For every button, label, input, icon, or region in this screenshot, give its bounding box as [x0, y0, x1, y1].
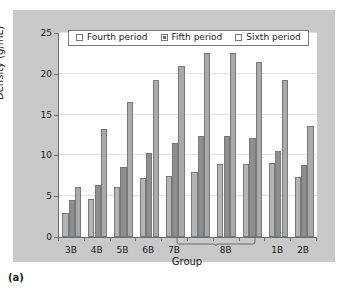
- bar: [127, 102, 133, 237]
- plot-area: [58, 33, 317, 238]
- x-axis-tick-mark: [84, 238, 85, 241]
- legend-swatch-icon: [235, 34, 242, 41]
- y-axis-tick-mark: [54, 196, 58, 197]
- legend-swatch-icon: [161, 34, 168, 41]
- y-axis-tick-label: 25: [32, 29, 52, 38]
- bar: [307, 126, 313, 237]
- x-axis-tick-mark: [110, 238, 111, 241]
- x-axis-tick-mark: [264, 238, 265, 241]
- y-axis-tick-label: 15: [32, 111, 52, 120]
- bar: [153, 80, 159, 237]
- y-axis-tick-label: 5: [32, 192, 52, 201]
- gridline: [59, 114, 317, 115]
- legend-label: Fourth period: [87, 33, 148, 42]
- x-axis-tick-mark: [290, 238, 291, 241]
- y-axis-tick-mark: [54, 115, 58, 116]
- figure-container: Density (g/mL) 0510152025 3B4B5B6B7B8B1B…: [0, 0, 348, 294]
- y-axis-tick-label: 10: [32, 151, 52, 160]
- y-axis-label: Density (g/mL): [0, 26, 5, 100]
- y-axis-tick-label: 20: [32, 70, 52, 79]
- x-axis-tick-mark: [135, 238, 136, 241]
- x-axis-tick-label: 8B: [211, 246, 241, 255]
- legend-entry: Sixth period: [235, 33, 300, 42]
- bar: [230, 53, 236, 237]
- bar: [256, 62, 262, 237]
- x-axis-tick-label: 2B: [288, 246, 318, 255]
- x-axis-tick-mark: [316, 238, 317, 241]
- legend-label: Sixth period: [246, 33, 300, 42]
- chart-legend: Fourth periodFifth periodSixth period: [68, 30, 309, 46]
- legend-entry: Fourth period: [76, 33, 148, 42]
- x-axis-tick-mark: [58, 238, 59, 241]
- bar: [204, 53, 210, 237]
- y-axis-tick-mark: [54, 33, 58, 34]
- y-axis-tick-label: 0: [32, 233, 52, 242]
- bar: [178, 66, 184, 237]
- y-axis-tick-mark: [54, 155, 58, 156]
- bar: [101, 129, 107, 237]
- legend-label: Fifth period: [172, 33, 223, 42]
- bar: [282, 80, 288, 237]
- gridline: [59, 73, 317, 74]
- y-axis-tick-mark: [54, 74, 58, 75]
- x-axis-tick-mark: [161, 238, 162, 241]
- bar: [75, 187, 81, 237]
- group-bracket-8b: [176, 238, 256, 246]
- x-axis-label: Group: [58, 256, 316, 267]
- figure-caption: (a): [8, 272, 24, 283]
- legend-swatch-icon: [76, 34, 83, 41]
- legend-entry: Fifth period: [161, 33, 223, 42]
- x-axis-tick-label: 7B: [159, 246, 189, 255]
